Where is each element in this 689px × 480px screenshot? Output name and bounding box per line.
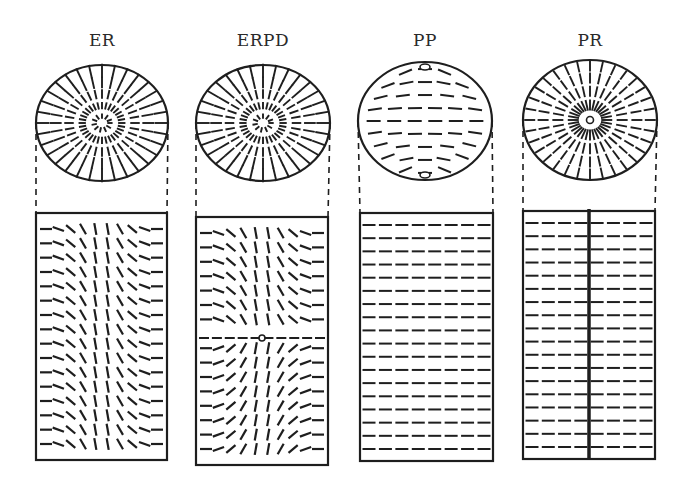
director-dash	[388, 108, 402, 109]
director-dash	[255, 126, 259, 129]
director-dash	[268, 90, 270, 99]
director-dash	[81, 143, 87, 151]
director-dash	[81, 95, 87, 103]
director-dash	[644, 130, 655, 132]
director-dash	[396, 95, 410, 97]
director-dash	[240, 285, 246, 295]
director-dash	[300, 274, 311, 278]
director-dash	[437, 158, 451, 161]
director-dash	[289, 344, 298, 352]
director-dash	[65, 128, 74, 130]
director-dash	[59, 143, 69, 149]
director-dash	[197, 132, 211, 134]
director-dash	[139, 270, 150, 274]
director-dash	[278, 372, 284, 382]
director-dash	[85, 133, 90, 138]
director-dash	[66, 368, 75, 376]
director-dash	[267, 299, 269, 311]
director-dash	[41, 101, 54, 106]
director-dash	[605, 140, 612, 149]
director-dash	[92, 119, 97, 121]
director-dash	[455, 83, 468, 88]
director-dash	[94, 395, 96, 407]
director-dash	[117, 381, 123, 391]
director-dash	[213, 447, 224, 451]
director-dash	[110, 157, 113, 168]
director-dash	[611, 165, 616, 175]
director-dash	[388, 133, 402, 134]
director-dash	[300, 361, 311, 365]
director-dash	[240, 444, 246, 454]
director-dash	[107, 266, 109, 278]
projection-line-right	[492, 121, 493, 213]
director-dash	[559, 133, 568, 139]
panel-label-pp: PP	[365, 30, 485, 50]
director-dash	[601, 62, 603, 73]
director-dash	[117, 396, 123, 406]
director-dash	[278, 415, 284, 425]
director-dash	[128, 397, 137, 405]
director-dash	[301, 105, 312, 109]
director-dash	[612, 101, 621, 107]
director-dash	[631, 127, 642, 129]
director-dash	[462, 96, 476, 99]
director-dash	[291, 117, 300, 119]
director-dash	[106, 126, 111, 129]
director-dash	[107, 438, 109, 450]
director-dash	[66, 411, 75, 419]
director-dash	[300, 346, 311, 350]
director-dash	[553, 71, 560, 80]
director-dash	[94, 409, 96, 421]
director-dash	[213, 231, 224, 235]
director-dash	[580, 73, 582, 84]
director-dash	[525, 130, 536, 132]
director-dash	[243, 112, 249, 116]
director-dash	[542, 134, 552, 138]
director-dash	[278, 401, 284, 411]
director-dash	[139, 428, 150, 432]
director-dash	[570, 154, 575, 164]
director-dash	[80, 410, 86, 420]
director-dash	[225, 74, 233, 85]
director-dash	[292, 90, 301, 98]
director-dash	[66, 426, 75, 434]
director-dash	[108, 136, 111, 143]
director-dash	[267, 285, 269, 297]
director-dash	[254, 104, 257, 111]
director-dash	[468, 132, 482, 134]
director-dash	[66, 340, 75, 348]
director-dash	[213, 346, 224, 350]
director-dash	[47, 148, 59, 155]
director-dash	[568, 122, 579, 124]
director-dash	[79, 126, 86, 127]
director-dash	[240, 343, 246, 353]
director-dash	[53, 428, 64, 432]
director-dash	[240, 257, 246, 267]
director-dash	[215, 82, 226, 91]
director-dash	[53, 370, 64, 374]
director-dash	[139, 299, 150, 303]
director-dash	[300, 433, 311, 437]
director-dash	[213, 245, 224, 249]
director-dash	[278, 228, 284, 238]
director-dash	[277, 112, 283, 116]
director-dash	[89, 106, 93, 112]
director-dash	[283, 140, 290, 146]
director-dash	[124, 152, 131, 161]
director-dash	[258, 137, 260, 144]
director-dash	[255, 313, 257, 325]
director-dash	[601, 116, 612, 118]
director-dash	[80, 128, 87, 130]
director-dash	[553, 146, 561, 153]
director-dash	[37, 112, 51, 114]
director-dash	[381, 83, 394, 88]
director-dash	[47, 90, 59, 97]
director-dash	[130, 90, 139, 98]
director-dash	[240, 386, 246, 396]
director-dash	[79, 119, 86, 120]
director-dash	[100, 127, 101, 132]
director-dash	[240, 415, 246, 425]
director-dash	[107, 338, 109, 350]
director-dash	[94, 295, 96, 307]
director-dash	[111, 135, 115, 141]
